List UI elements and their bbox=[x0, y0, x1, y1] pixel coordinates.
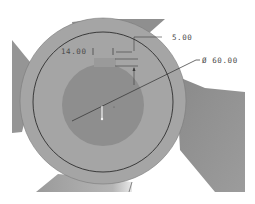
blade-right[interactable] bbox=[176, 76, 245, 192]
diameter-symbol-icon: Ø bbox=[202, 56, 207, 65]
shaft-bore[interactable] bbox=[62, 64, 144, 146]
dimension-label-key-width[interactable]: 14.00 bbox=[61, 47, 87, 56]
dimension-label-diameter[interactable]: Ø 60.00 bbox=[202, 56, 238, 65]
keyway[interactable] bbox=[94, 58, 116, 67]
dimension-label-key-depth[interactable]: 5.00 bbox=[172, 33, 192, 42]
center-point-icon bbox=[113, 106, 114, 107]
cad-viewport[interactable]: 14.00 5.00 Ø 60.00 bbox=[0, 0, 255, 204]
sketch-canvas[interactable]: 14.00 5.00 Ø 60.00 bbox=[0, 0, 255, 204]
